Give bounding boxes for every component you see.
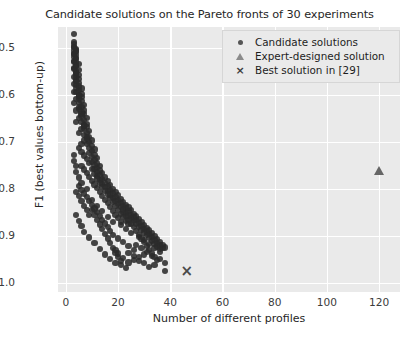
legend-item-candidate-solutions: Candidate solutions	[229, 35, 393, 49]
data-point	[97, 246, 103, 252]
data-point	[151, 262, 157, 268]
triangle-icon	[229, 49, 251, 63]
x-axis-tick-label: 100	[307, 296, 347, 308]
chart-title: Candidate solutions on the Pareto fronts…	[0, 8, 419, 21]
data-point	[71, 158, 77, 164]
data-point	[89, 166, 95, 172]
legend-label: Expert-designed solution	[251, 50, 385, 62]
x-axis-tick-label: 80	[255, 296, 295, 308]
data-point	[76, 174, 82, 180]
data-point	[71, 44, 77, 50]
y-axis-tick-label: 0.8	[0, 182, 15, 194]
y-axis-tick-label: 1.0	[0, 276, 15, 288]
gridline-vertical	[170, 27, 171, 292]
y-axis-tick-label: 0.6	[0, 88, 15, 100]
data-point	[125, 243, 131, 249]
data-point	[151, 245, 157, 251]
y-axis-tick-label: 0.5	[0, 41, 15, 53]
expert-solution-marker	[374, 166, 384, 175]
circle-icon	[229, 35, 251, 49]
data-point	[91, 212, 97, 218]
data-point	[78, 111, 84, 117]
data-point	[76, 218, 82, 224]
gridline-horizontal	[58, 95, 400, 96]
data-point	[81, 122, 87, 128]
data-point	[102, 251, 108, 257]
data-point	[84, 134, 90, 140]
best-solution-marker	[180, 266, 191, 277]
data-point	[157, 249, 163, 255]
data-point	[162, 268, 168, 274]
data-point	[162, 260, 168, 266]
data-point	[123, 265, 129, 271]
legend-item-expert-designed-solution: Expert-designed solution	[229, 49, 393, 63]
data-point	[73, 189, 79, 195]
data-point	[149, 253, 155, 259]
data-point	[105, 214, 111, 220]
data-point	[125, 250, 131, 256]
legend-item-best-solution: × Best solution in [29]	[229, 63, 393, 77]
data-point	[78, 180, 84, 186]
x-axis-tick-label: 20	[98, 296, 138, 308]
x-icon: ×	[229, 63, 251, 77]
x-axis-tick-label: 0	[46, 296, 86, 308]
gridline-horizontal	[58, 142, 400, 143]
data-point	[91, 240, 97, 246]
data-point	[146, 264, 152, 270]
chart-legend: Candidate solutions Expert-designed solu…	[222, 30, 400, 83]
x-axis-tick-label: 60	[202, 296, 242, 308]
data-point	[94, 203, 100, 209]
data-point	[71, 152, 77, 158]
x-axis-label: Number of different profiles	[58, 312, 400, 325]
data-point	[118, 258, 124, 264]
x-axis-tick-label: 40	[150, 296, 190, 308]
data-point	[71, 31, 77, 37]
gridline-horizontal	[58, 283, 400, 284]
data-point	[84, 186, 90, 192]
legend-label: Candidate solutions	[251, 36, 358, 48]
chart-figure: Candidate solutions on the Pareto fronts…	[0, 0, 419, 341]
legend-label: Best solution in [29]	[251, 64, 360, 76]
data-point	[76, 104, 82, 110]
y-axis-tick-label: 0.9	[0, 229, 15, 241]
x-axis-tick-label: 120	[359, 296, 399, 308]
gridline-vertical	[66, 27, 67, 292]
data-point	[78, 223, 84, 229]
data-point	[136, 234, 142, 240]
y-axis-label: F1 (best values bottom-up)	[33, 10, 46, 260]
data-point	[115, 235, 121, 241]
data-point	[110, 219, 116, 225]
y-axis-tick-label: 0.7	[0, 135, 15, 147]
data-point	[99, 208, 105, 214]
data-point	[78, 163, 84, 169]
